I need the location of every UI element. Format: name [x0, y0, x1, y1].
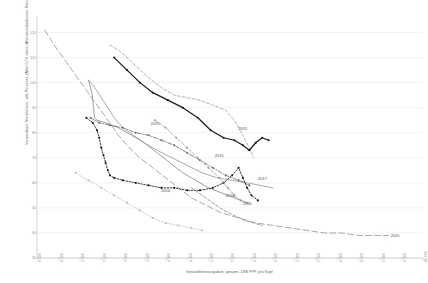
year-annotation: 2015	[238, 125, 247, 130]
year-annotation: 2015	[150, 120, 159, 125]
year-annotation: 2016	[226, 193, 235, 198]
x-axis-title: Gesundheitsausgaben, gesamt, US$ PPP, pr…	[186, 270, 273, 274]
y-axis-title-wrap: Vermeidbare Sterblichkeit, alle Personen…	[25, 0, 29, 147]
year-annotation: 2016	[161, 188, 170, 193]
year-annotation: 2015	[391, 233, 400, 238]
year-annotation: 2017	[258, 175, 267, 180]
year-annotation: 2016	[243, 200, 252, 205]
y-axis-title: Vermeidbare Sterblichkeit, alle Personen…	[25, 0, 29, 147]
year-annotation: 2015	[215, 153, 224, 158]
